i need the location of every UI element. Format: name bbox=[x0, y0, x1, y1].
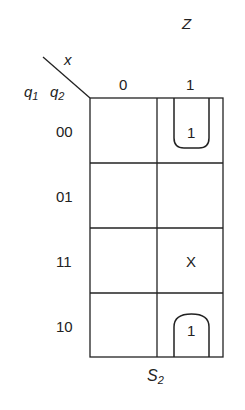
map-caption: S2 bbox=[147, 368, 164, 386]
cell-00-1: 1 bbox=[187, 125, 195, 140]
cell-10-1: 1 bbox=[187, 323, 195, 338]
row-header-01: 01 bbox=[56, 189, 73, 204]
kmap-grid-lines bbox=[0, 0, 245, 410]
column-header-0: 0 bbox=[119, 77, 127, 92]
row-header-10: 10 bbox=[56, 319, 73, 334]
row-header-11: 11 bbox=[56, 254, 72, 269]
row-variable-q2: q2 bbox=[50, 84, 64, 102]
row-variable-q1: q1 bbox=[24, 84, 38, 102]
row-header-00: 00 bbox=[56, 124, 73, 139]
cell-11-1: X bbox=[186, 254, 196, 269]
column-header-1: 1 bbox=[186, 77, 194, 92]
column-variable-label: x bbox=[64, 52, 72, 67]
map-title: Z bbox=[182, 16, 191, 31]
